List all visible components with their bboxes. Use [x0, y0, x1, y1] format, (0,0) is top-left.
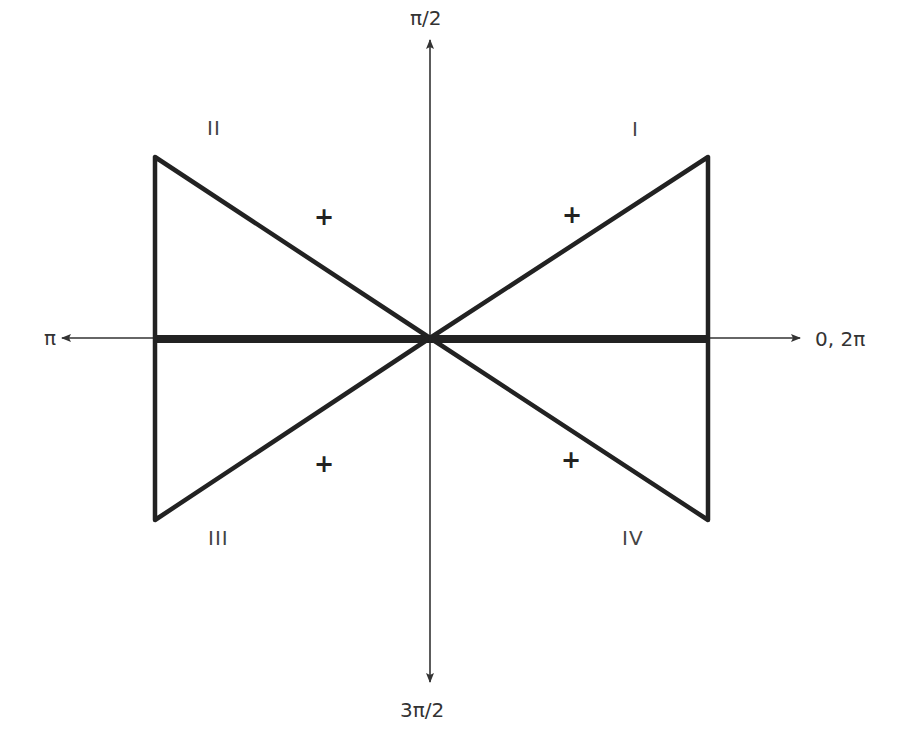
sign-quadrant-IV: +: [561, 448, 581, 472]
quadrant-label-II: II: [207, 118, 221, 138]
sign-quadrant-III: +: [314, 452, 334, 476]
quadrant-label-I: I: [632, 119, 639, 139]
quadrant-label-III: III: [208, 528, 229, 548]
label-pi-over-2: π/2: [410, 8, 442, 28]
axes: [62, 40, 800, 682]
sign-quadrant-I: +: [562, 203, 582, 227]
label-pi: π: [44, 328, 56, 348]
label-3pi-over-2: 3π/2: [400, 700, 444, 720]
diagram-canvas: [0, 0, 912, 732]
sign-quadrant-II: +: [314, 205, 334, 229]
quadrant-label-IV: IV: [622, 528, 644, 548]
label-0-2pi: 0, 2π: [815, 329, 865, 349]
